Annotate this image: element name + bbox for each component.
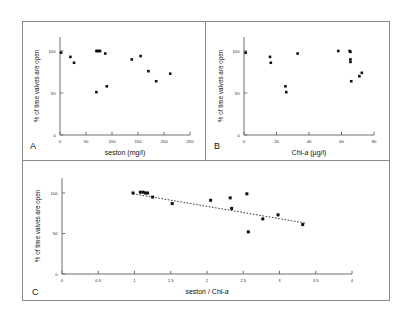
data-point bbox=[132, 192, 135, 195]
data-point bbox=[106, 85, 109, 88]
panel-a-x-axis-label: seston (mg/l) bbox=[105, 149, 145, 157]
data-point bbox=[69, 56, 72, 59]
panel-a-axes bbox=[60, 37, 190, 135]
x-tick-label: 1.5 bbox=[168, 278, 174, 283]
data-point bbox=[73, 61, 76, 64]
x-tick-label: 3 bbox=[278, 278, 281, 283]
y-tick-label: 0 bbox=[237, 133, 240, 138]
data-point bbox=[155, 80, 158, 83]
y-tick-label: 0 bbox=[53, 133, 56, 138]
x-tick-label: 0 bbox=[59, 139, 62, 144]
y-tick-label: 50 bbox=[53, 231, 58, 236]
data-point bbox=[244, 51, 247, 54]
panel-c-x-ticks: 00.511.522.533.54 bbox=[61, 271, 354, 283]
panel-c-data-points bbox=[132, 191, 305, 234]
panel-c: 00.511.522.533.54 050100 seston / Chl-a … bbox=[22, 161, 390, 301]
data-point bbox=[270, 61, 273, 64]
data-point bbox=[104, 52, 107, 55]
data-point bbox=[99, 50, 102, 53]
data-point bbox=[147, 70, 150, 73]
data-point bbox=[245, 192, 248, 195]
x-tick-label: 2.5 bbox=[240, 278, 246, 283]
x-tick-label: 4 bbox=[351, 278, 354, 283]
y-tick-label: 50 bbox=[235, 91, 240, 96]
data-point bbox=[349, 61, 352, 64]
y-tick-label: 100 bbox=[51, 191, 59, 196]
panel-b-x-axis-label: Chl-a (µg/l) bbox=[292, 149, 327, 157]
data-point bbox=[349, 51, 352, 54]
data-point bbox=[209, 199, 212, 202]
y-tick-label: 100 bbox=[49, 49, 57, 54]
data-point bbox=[261, 217, 264, 220]
x-tick-label: 60 bbox=[339, 139, 344, 144]
x-tick-label: 50 bbox=[84, 139, 89, 144]
data-point bbox=[139, 191, 142, 194]
data-point bbox=[95, 91, 98, 94]
x-tick-label: 200 bbox=[161, 139, 169, 144]
panel-letter-a: A bbox=[30, 141, 36, 151]
y-tick-label: 0 bbox=[55, 272, 58, 277]
data-point bbox=[349, 58, 352, 61]
x-tick-label: 80 bbox=[372, 139, 377, 144]
data-point bbox=[358, 75, 361, 78]
panel-c-axes bbox=[62, 178, 352, 274]
panel-c-trendline bbox=[133, 194, 305, 223]
panel-a-plot: 050100150200250 050100 seston (mg/l) % o… bbox=[22, 21, 206, 160]
data-point bbox=[171, 202, 174, 205]
data-point bbox=[146, 192, 149, 195]
figure-container: 050100150200250 050100 seston (mg/l) % o… bbox=[0, 0, 412, 321]
x-tick-label: 2 bbox=[206, 278, 209, 283]
data-point bbox=[269, 56, 272, 59]
data-point bbox=[247, 230, 250, 233]
data-point bbox=[229, 196, 232, 199]
panel-b: 020406080 050100 Chl-a (µg/l) % of time … bbox=[206, 21, 390, 160]
panel-a-y-ticks: 050100 bbox=[49, 49, 64, 138]
x-tick-label: 3.5 bbox=[313, 278, 319, 283]
x-tick-label: 0.5 bbox=[95, 278, 101, 283]
panel-b-x-ticks: 020406080 bbox=[243, 132, 377, 144]
panel-letter-c: C bbox=[32, 287, 39, 297]
panel-b-axes bbox=[244, 37, 374, 135]
panel-b-y-ticks: 050100 bbox=[233, 49, 248, 138]
data-point bbox=[230, 207, 233, 210]
panel-a: 050100150200250 050100 seston (mg/l) % o… bbox=[22, 21, 206, 160]
x-tick-label: 1 bbox=[133, 278, 136, 283]
data-point bbox=[337, 50, 340, 53]
panel-a-y-axis-label: % of time valves are open bbox=[33, 49, 41, 122]
x-tick-label: 40 bbox=[307, 139, 312, 144]
data-point bbox=[301, 223, 304, 226]
x-tick-label: 250 bbox=[187, 139, 195, 144]
data-point bbox=[350, 80, 353, 83]
x-tick-label: 100 bbox=[109, 139, 117, 144]
panel-c-y-axis-label: % of time valves are open bbox=[34, 189, 42, 262]
panel-c-plot: 00.511.522.533.54 050100 seston / Chl-a … bbox=[22, 161, 390, 301]
data-point bbox=[169, 72, 172, 75]
data-point bbox=[60, 51, 63, 54]
x-tick-label: 0 bbox=[243, 139, 246, 144]
data-point bbox=[296, 52, 299, 55]
panel-b-plot: 020406080 050100 Chl-a (µg/l) % of time … bbox=[206, 21, 390, 160]
data-point bbox=[130, 58, 133, 61]
data-point bbox=[361, 72, 364, 75]
panel-b-y-axis-label: % of time valves are open bbox=[217, 49, 225, 122]
data-point bbox=[285, 91, 288, 94]
panel-letter-b: B bbox=[214, 141, 220, 151]
y-tick-label: 50 bbox=[51, 91, 56, 96]
x-tick-label: 0 bbox=[61, 278, 64, 283]
data-point bbox=[277, 213, 280, 216]
data-point bbox=[151, 196, 154, 199]
panel-a-x-ticks: 050100150200250 bbox=[59, 132, 194, 144]
panel-c-y-ticks: 050100 bbox=[51, 191, 66, 277]
x-tick-label: 20 bbox=[274, 139, 279, 144]
x-tick-label: 150 bbox=[135, 139, 143, 144]
panel-c-x-axis-label: seston / Chl-a bbox=[185, 288, 228, 295]
panel-b-data-points bbox=[244, 50, 363, 94]
panel-a-data-points bbox=[60, 50, 172, 94]
y-tick-label: 100 bbox=[233, 49, 241, 54]
data-point bbox=[284, 85, 287, 88]
data-point bbox=[139, 55, 142, 58]
